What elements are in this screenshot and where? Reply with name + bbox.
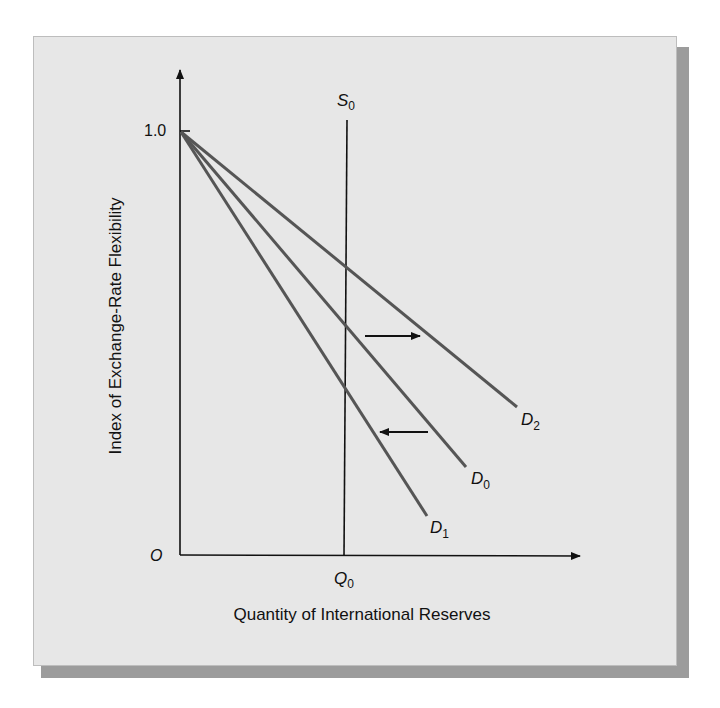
- x-axis-label: Quantity of International Reserves: [233, 605, 490, 624]
- demand-line-d0: [181, 132, 466, 467]
- quantity-label-q0: Q0: [334, 569, 354, 591]
- supply-line-s0: [344, 120, 347, 556]
- supply-label-s0: S0: [337, 91, 355, 113]
- demand-line-d2: [181, 132, 517, 407]
- diagram: 1.0 O S0 Q0 D2 D0 D1 Quantity of Interna…: [0, 0, 720, 708]
- origin-label: O: [150, 547, 162, 564]
- demand-line-d1: [181, 132, 427, 516]
- y-tick-label: 1.0: [144, 122, 166, 139]
- demand-label-d0: D0: [471, 469, 490, 492]
- x-axis: [180, 555, 580, 556]
- demand-label-d2: D2: [521, 410, 540, 433]
- demand-label-d1: D1: [430, 518, 449, 541]
- y-axis-label: Index of Exchange-Rate Flexibility: [106, 197, 125, 455]
